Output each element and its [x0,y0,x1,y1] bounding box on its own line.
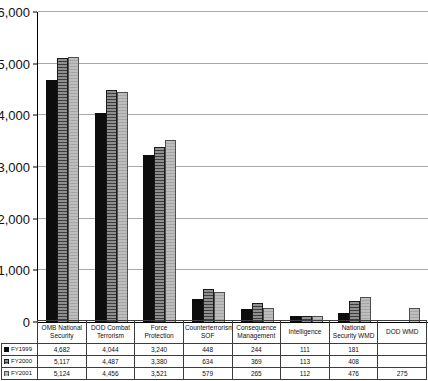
bar-slot [290,12,301,322]
table-cell: 265 [232,368,281,380]
table-cell: 5,124 [38,368,87,380]
data-table: OMB National SecurityDOD Combat Terroris… [1,320,427,380]
bar-slot [398,12,409,322]
bar-fy2001 [360,297,371,322]
table-cell: 3,380 [135,356,184,368]
bar-group [38,12,87,322]
table-cell: 275 [378,368,427,380]
table-cell: 448 [183,344,232,356]
data-table-wrap: OMB National SecurityDOD Combat Terroris… [1,320,427,380]
table-cell: 4,682 [38,344,87,356]
table-cell: 369 [232,356,281,368]
table-column-header: National Security WMD [329,321,378,344]
table-column-header: DOD WMD [378,321,427,344]
table-column-header: OMB National Security [38,321,87,344]
y-axis: 01,0002,0003,0004,0005,0006,000 [0,12,37,322]
bar-fy1999 [143,155,154,322]
bar-fy2001 [214,292,225,322]
table-header-row: OMB National SecurityDOD Combat Terroris… [2,321,427,344]
table-row: FY20015,1244,4563,521579265112476275 [2,368,427,380]
bar-slot [57,12,68,322]
bar-slot [409,12,420,322]
bar-fy2001 [165,140,176,322]
y-tick-label: 6,000 [0,5,30,20]
table-cell: 476 [329,368,378,380]
table-cell: 112 [281,368,330,380]
bar-slot [68,12,79,322]
bar-slot [46,12,57,322]
y-tick-label: 4,000 [0,108,30,123]
bar-fy2000 [106,90,117,322]
table-cell [378,356,427,368]
legend-item-fy1999: FY1999 [2,344,38,356]
table-cell [378,344,427,356]
bar-fy2001 [117,92,128,322]
table-cell: 111 [281,344,330,356]
table-cell: 5,117 [38,356,87,368]
bar-fy2000 [154,147,165,322]
table-column-header: Intelligence [281,321,330,344]
table-column-header: Counterterrorism/ SOF [183,321,232,344]
bar-slot [349,12,360,322]
table-cell: 181 [329,344,378,356]
legend-swatch-fy2000 [4,359,9,364]
bar-slot [95,12,106,322]
bar-slot [214,12,225,322]
table-column-header: Consequence Management [232,321,281,344]
table-body: OMB National SecurityDOD Combat Terroris… [2,321,427,380]
bar-group [379,12,428,322]
table-column-header: Force Protection [135,321,184,344]
bar-chart-with-data-table: 01,0002,0003,0004,0005,0006,000 OMB Nati… [0,0,428,381]
legend-swatch-fy2001 [4,371,9,376]
bar-fy2000 [203,289,214,322]
bar-slot [338,12,349,322]
plot-area [37,12,428,323]
table-cell: 4,487 [86,356,135,368]
bar-slot [241,12,252,322]
bar-fy2001 [68,57,79,322]
table-row: FY20005,1174,4873,380634369113408 [2,356,427,368]
table-cell: 3,240 [135,344,184,356]
table-cell: 634 [183,356,232,368]
bar-group [184,12,233,322]
bar-group [87,12,136,322]
table-cell: 113 [281,356,330,368]
bar-fy2000 [349,301,360,322]
y-tick-label: 1,000 [0,263,30,278]
table-cell: 408 [329,356,378,368]
bar-slot [360,12,371,322]
table-cell: 244 [232,344,281,356]
bar-slot [165,12,176,322]
table-row: FY19994,6824,0443,240448244111181 [2,344,427,356]
bar-fy1999 [192,299,203,322]
bar-fy1999 [95,113,106,322]
bar-slot [117,12,128,322]
table-cell: 4,044 [86,344,135,356]
legend-swatch-fy1999 [4,347,9,352]
bar-slot [203,12,214,322]
bar-slot [143,12,154,322]
table-cell: 4,456 [86,368,135,380]
bar-fy2000 [57,58,68,322]
bar-slot [312,12,323,322]
bar-slot [154,12,165,322]
y-tick-label: 5,000 [0,56,30,71]
bar-group [331,12,380,322]
bar-fy1999 [46,80,57,322]
bar-group [233,12,282,322]
bar-group [136,12,185,322]
bar-slot [252,12,263,322]
bar-group [282,12,331,322]
table-corner-cell [2,321,38,344]
legend-item-fy2000: FY2000 [2,356,38,368]
bar-slot [301,12,312,322]
legend-item-fy2001: FY2001 [2,368,38,380]
table-column-header: DOD Combat Terrorism [86,321,135,344]
y-tick-label: 3,000 [0,160,30,175]
bar-slot [192,12,203,322]
table-cell: 3,521 [135,368,184,380]
y-tick-label: 2,000 [0,211,30,226]
table-cell: 579 [183,368,232,380]
bar-slot [263,12,274,322]
bar-slot [387,12,398,322]
